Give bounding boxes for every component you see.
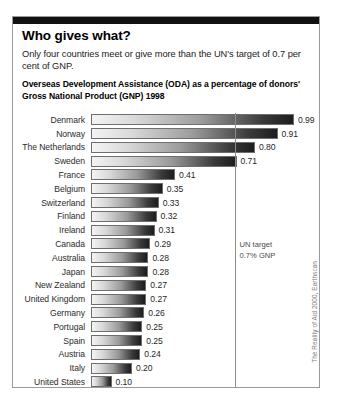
- bar-value-label: 0.35: [167, 184, 184, 194]
- bar-value-label: 0.99: [298, 115, 315, 125]
- chart-row: France0.41: [13, 168, 319, 182]
- infographic-panel: Who gives what? Only four countries meet…: [12, 16, 320, 388]
- source-credit: The Reality of Aid 2000, Earthscan: [311, 261, 318, 363]
- bar-category-label: Spain: [13, 336, 91, 346]
- bar-value-label: 0.80: [259, 142, 276, 152]
- bar-category-label: Denmark: [13, 115, 91, 125]
- bar-category-label: Japan: [13, 267, 91, 277]
- chart-row: Belgium0.35: [13, 182, 319, 196]
- chart-row: Portugal0.25: [13, 320, 319, 334]
- bar-track: 0.71: [91, 154, 319, 168]
- bar-track: 0.25: [91, 320, 319, 334]
- bar: [91, 183, 163, 194]
- chart-row: Italy0.20: [13, 361, 319, 375]
- chart-row: Austria0.24: [13, 348, 319, 362]
- bar-track: 0.28: [91, 265, 319, 279]
- bar: [91, 376, 112, 387]
- bar-value-label: 0.10: [116, 377, 133, 387]
- bar-category-label: Italy: [13, 363, 91, 373]
- bar-value-label: 0.28: [152, 267, 169, 277]
- chart-row: United Kingdom0.27: [13, 292, 319, 306]
- bar-chart: Denmark0.99Norway0.91The Netherlands0.80…: [13, 113, 319, 388]
- bar-category-label: Austria: [13, 349, 91, 359]
- bar-track: 0.24: [91, 348, 319, 362]
- bar-track: 0.26: [91, 306, 319, 320]
- bar: [91, 114, 294, 125]
- bar-category-label: United Kingdom: [13, 294, 91, 304]
- bar-category-label: Sweden: [13, 156, 91, 166]
- bar-category-label: Switzerland: [13, 198, 91, 208]
- un-target-label: UN target 0.7% GNP: [240, 239, 276, 261]
- panel-header: Who gives what? Only four countries meet…: [22, 28, 310, 72]
- chart-heading: Overseas Development Assistance (ODA) as…: [22, 78, 307, 102]
- chart-row: Sweden0.71: [13, 154, 319, 168]
- bar-track: 0.20: [91, 361, 319, 375]
- bar: [91, 156, 237, 167]
- bar-category-label: Germany: [13, 308, 91, 318]
- bar-value-label: 0.71: [241, 156, 258, 166]
- bar-category-label: Norway: [13, 129, 91, 139]
- chart-row: Ireland0.31: [13, 223, 319, 237]
- chart-row: Norway0.91: [13, 127, 319, 141]
- bar-track: 0.99: [91, 113, 319, 127]
- bar-category-label: The Netherlands: [13, 142, 91, 152]
- bar: [91, 169, 175, 180]
- bar-value-label: 0.31: [159, 225, 176, 235]
- bar-track: 0.91: [91, 127, 319, 141]
- chart-row: Spain0.25: [13, 334, 319, 348]
- chart-row: Denmark0.99: [13, 113, 319, 127]
- bar: [91, 211, 157, 222]
- panel-subtitle: Only four countries meet or give more th…: [22, 48, 310, 73]
- chart-row: The Netherlands0.80: [13, 141, 319, 155]
- bar-track: 0.25: [91, 334, 319, 348]
- bar-track: 0.29: [91, 237, 319, 251]
- bar: [91, 238, 150, 249]
- bar-value-label: 0.27: [150, 294, 167, 304]
- bar: [91, 197, 159, 208]
- bar-track: 0.27: [91, 292, 319, 306]
- bar-track: 0.41: [91, 168, 319, 182]
- chart-row: Finland0.32: [13, 210, 319, 224]
- bar-value-label: 0.29: [154, 239, 171, 249]
- bar-value-label: 0.28: [152, 253, 169, 263]
- bar-track: 0.31: [91, 223, 319, 237]
- bar-value-label: 0.25: [146, 336, 163, 346]
- bar: [91, 128, 278, 139]
- chart-row: Japan0.28: [13, 265, 319, 279]
- bar-category-label: Australia: [13, 253, 91, 263]
- bar-category-label: France: [13, 170, 91, 180]
- bar-category-label: Ireland: [13, 225, 91, 235]
- bar-value-label: 0.24: [144, 349, 161, 359]
- bar: [91, 294, 146, 305]
- bar-value-label: 0.25: [146, 322, 163, 332]
- bar-category-label: United States: [13, 377, 91, 387]
- bar: [91, 335, 142, 346]
- un-target-line: [235, 113, 236, 388]
- bar: [91, 280, 146, 291]
- bar-value-label: 0.20: [136, 363, 153, 373]
- bar-value-label: 0.91: [282, 129, 299, 139]
- chart-row: United States0.10: [13, 375, 319, 388]
- bar: [91, 349, 140, 360]
- bar-track: 0.32: [91, 210, 319, 224]
- chart-row: Switzerland0.33: [13, 196, 319, 210]
- bar-category-label: Canada: [13, 239, 91, 249]
- un-target-label-line1: UN target: [240, 239, 276, 250]
- chart-row: New Zealand0.27: [13, 279, 319, 293]
- bar-value-label: 0.41: [179, 170, 196, 180]
- bar: [91, 252, 148, 263]
- un-target-label-line2: 0.7% GNP: [240, 250, 276, 261]
- bar-value-label: 0.32: [161, 211, 178, 221]
- bar-track: 0.35: [91, 182, 319, 196]
- bar-value-label: 0.26: [148, 308, 165, 318]
- bar: [91, 363, 132, 374]
- bar-category-label: Portugal: [13, 322, 91, 332]
- bar-value-label: 0.27: [150, 280, 167, 290]
- top-rule: [13, 17, 319, 24]
- bar: [91, 307, 144, 318]
- chart-row: Germany0.26: [13, 306, 319, 320]
- bar-category-label: New Zealand: [13, 280, 91, 290]
- bar: [91, 225, 155, 236]
- bar-track: 0.33: [91, 196, 319, 210]
- bar-track: 0.10: [91, 375, 319, 388]
